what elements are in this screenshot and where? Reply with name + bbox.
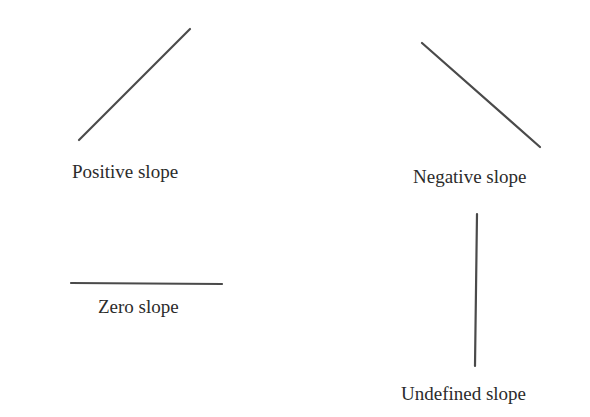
negative-slope-line bbox=[422, 43, 540, 147]
positive-slope-label: Positive slope bbox=[72, 162, 178, 181]
zero-slope-label: Zero slope bbox=[98, 297, 179, 316]
slope-diagram bbox=[0, 0, 590, 417]
undefined-slope-label: Undefined slope bbox=[401, 384, 526, 403]
undefined-slope-line bbox=[475, 214, 477, 366]
zero-slope-line bbox=[71, 283, 222, 284]
negative-slope-label: Negative slope bbox=[413, 167, 526, 186]
positive-slope-line bbox=[79, 29, 190, 140]
